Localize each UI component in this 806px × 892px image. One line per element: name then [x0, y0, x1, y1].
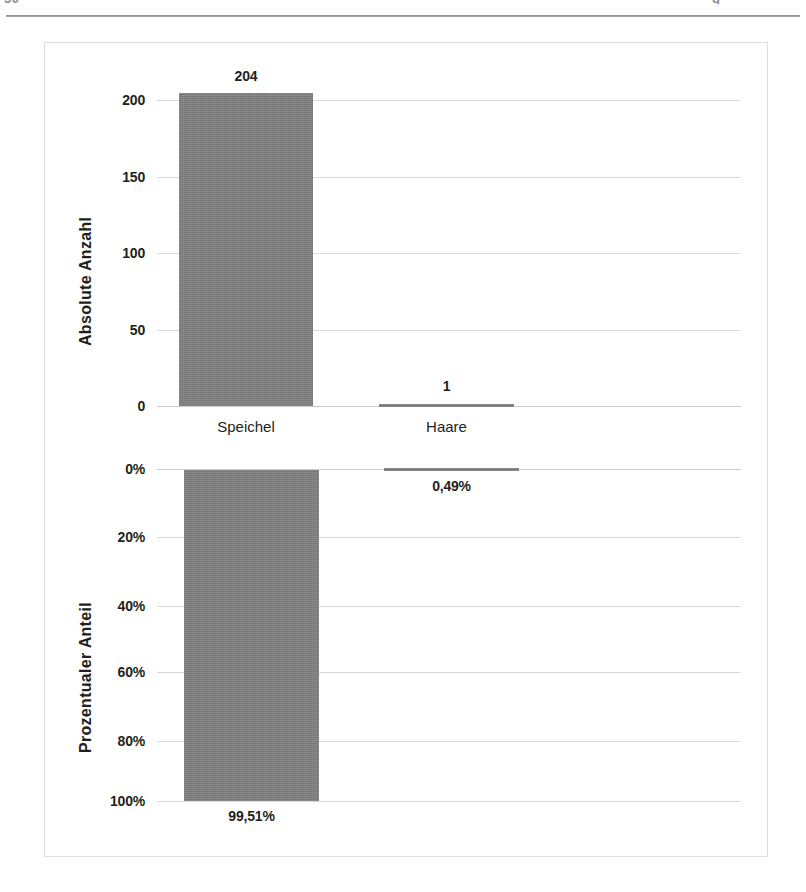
- y-tick-label-0: 0: [75, 398, 145, 414]
- y-tick-label-100pct: 100%: [75, 793, 145, 809]
- header-rule: [6, 15, 800, 17]
- y-tick-label-40pct: 40%: [75, 598, 145, 614]
- category-label-haare: Haare: [379, 418, 514, 435]
- bar-haare-absolute: [379, 404, 514, 407]
- y-tick-label-20pct: 20%: [75, 529, 145, 545]
- bar-value-speichel-absolute: 204: [179, 68, 313, 84]
- page-header: 50 g: [0, 0, 806, 26]
- bar-speichel-absolute: [179, 93, 313, 406]
- bar-value-speichel-percentage: 99,51%: [184, 808, 319, 824]
- bar-value-haare-absolute: 1: [379, 378, 514, 394]
- y-tick-label-0pct: 0%: [75, 461, 145, 477]
- page-number-left: 50: [4, 0, 19, 4]
- gridline-100pct: [157, 801, 741, 802]
- category-label-speichel: Speichel: [179, 418, 313, 435]
- page-header-right: g: [712, 0, 720, 4]
- chart-frame: Absolute Anzahl 200 150 100 50 0 204 1 S…: [44, 42, 768, 857]
- bar-value-haare-percentage: 0,49%: [384, 478, 519, 494]
- bar-speichel-percentage: [184, 470, 319, 801]
- y-axis-title-absolute: Absolute Anzahl: [77, 191, 101, 371]
- y-tick-label-200: 200: [75, 92, 145, 108]
- y-tick-label-80pct: 80%: [75, 733, 145, 749]
- y-tick-label-50: 50: [75, 322, 145, 338]
- bar-haare-percentage: [384, 468, 519, 471]
- y-tick-label-60pct: 60%: [75, 664, 145, 680]
- y-tick-label-100: 100: [75, 245, 145, 261]
- y-tick-label-150: 150: [75, 169, 145, 185]
